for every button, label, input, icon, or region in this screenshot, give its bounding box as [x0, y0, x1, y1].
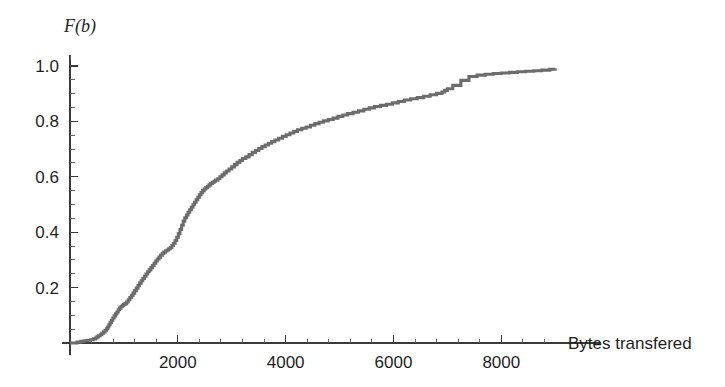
- x-axis-tick-labels: 2000400060008000: [159, 353, 520, 372]
- x-tick-label: 2000: [159, 353, 197, 372]
- y-tick-label: 0.8: [35, 112, 59, 131]
- axis-group: [62, 55, 600, 355]
- y-tick-label: 0.4: [35, 223, 59, 242]
- y-axis-title: F(b): [63, 16, 96, 37]
- ecdf-curve: [70, 68, 555, 343]
- ecdf-plot: 2000400060008000 0.20.40.60.81.0 F(b) By…: [0, 0, 725, 387]
- y-axis-ticks: [70, 55, 78, 352]
- x-axis-ticks: [92, 335, 545, 343]
- x-tick-label: 6000: [375, 353, 413, 372]
- x-tick-label: 8000: [482, 353, 520, 372]
- x-tick-label: 4000: [267, 353, 305, 372]
- x-axis-title: Bytes transfered: [568, 334, 692, 353]
- y-axis-tick-labels: 0.20.40.60.81.0: [35, 57, 59, 298]
- y-tick-label: 1.0: [35, 57, 59, 76]
- chart-figure: 2000400060008000 0.20.40.60.81.0 F(b) By…: [0, 0, 725, 387]
- y-tick-label: 0.6: [35, 168, 59, 187]
- y-tick-label: 0.2: [35, 279, 59, 298]
